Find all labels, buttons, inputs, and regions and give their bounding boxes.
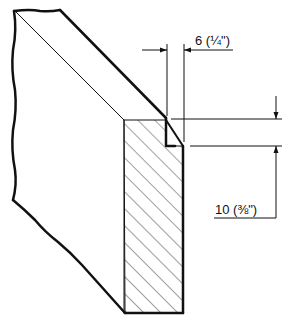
rebate-drawing: 6 (¼") 10 (⅜") [0, 0, 290, 324]
cross-section [124, 120, 183, 313]
dimension-label-rebate-depth: 10 (⅜") [215, 202, 257, 217]
dimension-rebate-depth [171, 96, 282, 218]
dimension-label-rebate-width: 6 (¼") [195, 33, 230, 48]
